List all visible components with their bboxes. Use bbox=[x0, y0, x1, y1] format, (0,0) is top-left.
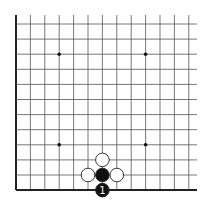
star-point bbox=[144, 143, 148, 147]
white-stone bbox=[81, 168, 95, 182]
move-number-label: 1 bbox=[99, 185, 105, 196]
white-stone bbox=[110, 168, 124, 182]
star-point bbox=[57, 143, 61, 147]
star-point bbox=[57, 52, 61, 56]
white-stone bbox=[96, 153, 110, 167]
black-stone bbox=[96, 168, 110, 182]
go-board: 1 bbox=[0, 0, 211, 204]
star-point bbox=[144, 52, 148, 56]
